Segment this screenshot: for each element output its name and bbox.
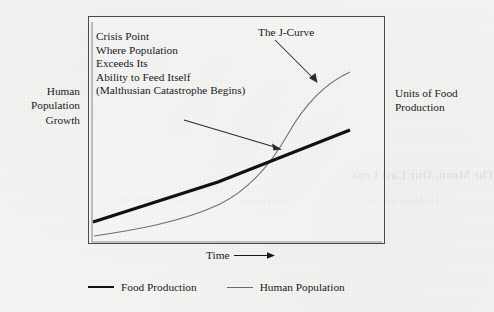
legend-swatch-icon xyxy=(88,286,114,289)
text-line-0: Units of Food xyxy=(395,86,493,100)
series-food-production xyxy=(93,130,350,222)
x-axis-caption: Time xyxy=(206,249,276,261)
text-line-2: Growth xyxy=(6,113,80,127)
legend: Food ProductionHuman Population xyxy=(88,281,345,293)
figure-page: The Moon, Our Last LensTod Papageorge Si… xyxy=(0,0,494,312)
x-axis-caption-label: Time xyxy=(206,249,229,261)
arrow-right-icon xyxy=(234,251,276,260)
jcurve-arrow-icon xyxy=(275,40,318,83)
text-line-0: Crisis Point xyxy=(96,30,245,44)
text-line-0: The J-Curve xyxy=(258,26,314,40)
right-axis-label: Units of FoodProduction xyxy=(395,86,493,115)
text-line-1: Where Population xyxy=(96,44,245,58)
text-line-2: Exceeds Its xyxy=(96,57,245,71)
legend-label: Human Population xyxy=(260,281,345,293)
legend-swatch-icon xyxy=(227,287,253,288)
left-axis-label: HumanPopulationGrowth xyxy=(6,84,80,127)
text-line-4: (Malthusian Catastrophe Begins) xyxy=(96,84,245,98)
legend-label: Food Production xyxy=(121,281,197,293)
text-line-0: Human xyxy=(6,84,80,98)
legend-item-1[interactable]: Human Population xyxy=(227,281,345,293)
legend-item-0[interactable]: Food Production xyxy=(88,281,197,293)
crisis-point-annotation: Crisis PointWhere PopulationExceeds ItsA… xyxy=(96,30,245,98)
text-line-1: Production xyxy=(395,100,493,114)
text-line-1: Population xyxy=(6,98,80,112)
crisis-arrow-icon xyxy=(184,120,282,151)
text-line-3: Ability to Feed Itself xyxy=(96,71,245,85)
jcurve-annotation: The J-Curve xyxy=(258,26,314,40)
